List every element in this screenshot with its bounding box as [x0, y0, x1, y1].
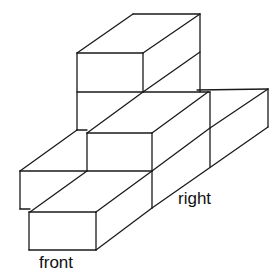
right-label: right: [178, 190, 211, 207]
blocks-drawing: [0, 0, 280, 277]
block-stack-diagram: right front: [0, 0, 280, 277]
block-left: [20, 130, 152, 212]
front-label: front: [39, 254, 73, 271]
block-front: [29, 171, 152, 250]
